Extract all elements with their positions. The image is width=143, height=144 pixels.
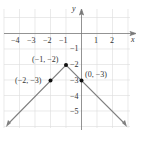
y-tick-label: −5 [70,108,79,116]
line-arrowheads [6,120,127,127]
point-vertex [64,63,68,67]
x-axis-label: x [131,36,135,44]
x-tick-label: −2 [43,37,52,45]
y-axis-label: y [72,5,76,13]
y-tick-label: −3 [70,77,79,85]
point-label-right: (0, −3) [85,71,107,79]
x-tick-label: −1 [59,37,68,45]
coordinate-plane [0,0,143,144]
point-label-vertex: (−1, −2) [32,56,58,64]
y-tick-label: −2 [70,61,79,69]
y-tick-label: −1 [70,45,79,53]
point-label-left: (−2, −3) [15,77,41,85]
point-right [80,79,84,83]
graph-line [8,65,125,124]
x-tick-label: −4 [11,37,20,45]
x-tick-label: −3 [27,37,36,45]
y-tick-label: −4 [70,93,79,101]
x-tick-label: 2 [110,37,114,45]
point-left [49,79,53,83]
x-tick-label: 1 [94,37,98,45]
